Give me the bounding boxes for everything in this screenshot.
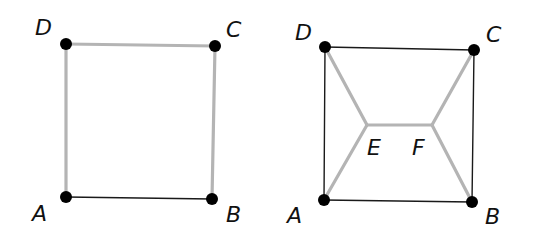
black-edge-AB	[66, 197, 212, 199]
vertex-label-A: A	[30, 201, 47, 226]
vertex-A	[60, 191, 72, 203]
vertex-C	[468, 44, 480, 56]
black-edge-DA	[324, 47, 325, 200]
gray-edge-AE	[324, 125, 367, 200]
vertex-label-A: A	[285, 203, 302, 228]
vertex-C	[209, 40, 221, 52]
figure-steiner-network: ABCDEF	[285, 20, 502, 229]
vertex-D	[60, 38, 72, 50]
vertex-label-B: B	[485, 204, 500, 229]
gray-edge-FC	[432, 50, 474, 125]
vertex-B	[206, 193, 218, 205]
black-edge-CB	[472, 50, 474, 202]
vertex-label-C: C	[486, 22, 502, 47]
gray-edge-FB	[432, 125, 472, 202]
figure-square-path: ABCD	[30, 15, 242, 227]
diagram-canvas: ABCD ABCDEF	[0, 0, 533, 245]
vertex-A	[318, 194, 330, 206]
black-edge-DC	[325, 47, 474, 50]
vertex-B	[466, 196, 478, 208]
vertex-D	[319, 41, 331, 53]
vertex-label-F: F	[412, 135, 425, 160]
black-edge-AB	[324, 200, 472, 202]
gray-edge-CB	[212, 46, 215, 199]
gray-edge-DC	[66, 44, 215, 46]
vertex-label-D: D	[35, 15, 52, 40]
gray-edge-DE	[325, 47, 367, 125]
vertex-label-D: D	[295, 20, 312, 45]
vertex-label-E: E	[367, 135, 381, 160]
vertex-label-C: C	[226, 17, 242, 42]
vertex-label-B: B	[226, 202, 241, 227]
